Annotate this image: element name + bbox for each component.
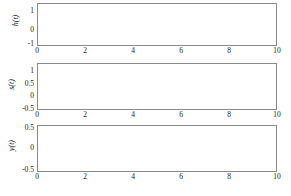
panel-1-xtick-8: 8 — [221, 46, 237, 55]
panel-2-xtick-0: 0 — [29, 110, 45, 119]
panel-2-ytick-0: 0 — [16, 91, 34, 100]
panel-1-ytick-1: 1 — [16, 6, 34, 15]
panel-1-xtick-2: 2 — [77, 46, 93, 55]
panel-3-ylabel: y(t) — [7, 128, 16, 164]
panel-3-xtick-2: 2 — [77, 172, 93, 181]
panel-2-xtick-6: 6 — [173, 110, 189, 119]
panel-3-ytick-0: 0 — [16, 143, 34, 152]
panel-step-response — [37, 63, 277, 110]
panel-3-xtick-4: 4 — [125, 172, 141, 181]
panel-1-xtick-4: 4 — [125, 46, 141, 55]
figure-canvas: h(t) 1 0 -1 0 2 4 6 8 10 s(t) 1 0.5 0 -0… — [0, 0, 291, 196]
panel-1-xtick-10: 10 — [268, 46, 286, 55]
panel-2-xtick-2: 2 — [77, 110, 93, 119]
panel-output-response — [37, 125, 277, 172]
panel-3-ytick-05: 0.5 — [11, 123, 34, 132]
panel-2-frame — [37, 63, 277, 110]
panel-2-xtick-4: 4 — [125, 110, 141, 119]
panel-1-xtick-0: 0 — [29, 46, 45, 55]
panel-3-xtick-10: 10 — [268, 172, 286, 181]
panel-impulse-response — [37, 3, 277, 46]
panel-3-xtick-0: 0 — [29, 172, 45, 181]
panel-1-xtick-6: 6 — [173, 46, 189, 55]
panel-1-ytick-0: 0 — [16, 25, 34, 34]
panel-1-frame — [37, 3, 277, 46]
panel-2-xtick-10: 10 — [268, 110, 286, 119]
panel-2-ytick-1: 1 — [16, 66, 34, 75]
panel-3-xtick-8: 8 — [221, 172, 237, 181]
panel-3-frame — [37, 125, 277, 172]
panel-3-xtick-6: 6 — [173, 172, 189, 181]
panel-2-ytick-05: 0.5 — [11, 79, 34, 88]
panel-2-xtick-8: 8 — [221, 110, 237, 119]
